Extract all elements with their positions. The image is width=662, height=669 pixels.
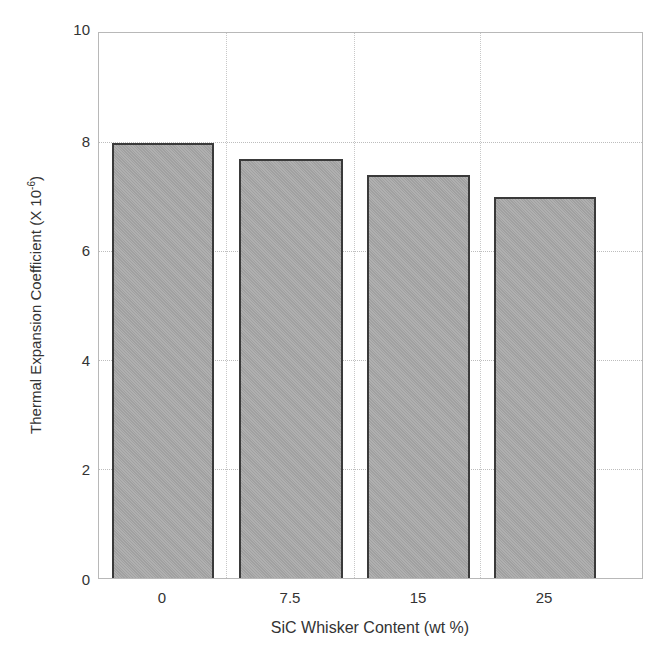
bar-25 [494, 197, 596, 578]
bar-chart: 0 2 4 6 8 10 0 7.5 15 25 SiC Whisker Con… [0, 0, 662, 669]
bar-7-5 [239, 159, 343, 578]
y-tick-label: 10 [50, 21, 90, 38]
y-axis-title-main: Thermal Expansion Coefficient (X 10 [27, 190, 44, 434]
gridline-x-3 [480, 33, 481, 578]
y-axis-title: Thermal Expansion Coefficient (X 10-6) [26, 176, 44, 434]
x-tick-label: 15 [410, 589, 427, 606]
y-tick-label: 4 [50, 352, 90, 369]
y-tick-label: 0 [50, 571, 90, 588]
x-tick-label: 25 [536, 589, 553, 606]
bar-15 [367, 175, 470, 578]
y-axis-title-exponent: -6 [26, 181, 37, 190]
x-tick-label: 0 [158, 589, 166, 606]
x-tick-label: 7.5 [280, 589, 301, 606]
x-axis-title: SiC Whisker Content (wt %) [271, 619, 469, 637]
y-tick-label: 8 [50, 133, 90, 150]
bar-0 [112, 143, 214, 578]
gridline-x-2 [354, 33, 355, 578]
gridline-x-1 [226, 33, 227, 578]
y-tick-label: 2 [50, 461, 90, 478]
y-tick-label: 6 [50, 242, 90, 259]
plot-area [98, 32, 643, 579]
y-axis-title-close: ) [27, 176, 44, 181]
